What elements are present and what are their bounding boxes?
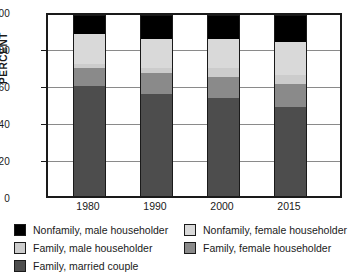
legend-item: Nonfamily, female householder	[184, 222, 347, 238]
x-tick-label-2000: 2000	[192, 200, 252, 212]
x-tick-label-1980: 1980	[58, 200, 118, 212]
legend-item: Family, male householder	[14, 240, 168, 256]
y-tick-label-0: 0	[0, 193, 10, 204]
y-tick-label-20: 20	[0, 156, 10, 167]
y-tick-label-80: 80	[0, 45, 10, 56]
y-tick-label-60: 60	[0, 82, 10, 93]
legend-swatch-icon	[14, 242, 26, 254]
bar-segment	[274, 75, 307, 84]
bar-segment	[274, 107, 307, 196]
y-tick-label-40: 40	[0, 119, 10, 130]
bar-2015	[274, 15, 307, 196]
bar-1990	[140, 15, 173, 196]
bar-segment	[140, 15, 173, 39]
legend-swatch-icon	[14, 260, 26, 272]
y-tick-label-100: 100	[0, 8, 10, 19]
legend-label: Family, female householder	[203, 242, 331, 254]
bar-segment	[207, 68, 240, 76]
bar-segment	[207, 77, 240, 99]
bar-1980	[73, 15, 106, 196]
legend-swatch-icon	[14, 224, 26, 236]
bar-segment	[274, 84, 307, 108]
y-axis-title: PERCENT	[0, 32, 9, 84]
legend-label: Family, married couple	[33, 260, 138, 272]
legend-column-left: Nonfamily, male householder Family, male…	[14, 222, 168, 275]
stacked-bar-chart: PERCENT 100 80 60 40 20 0 1980 1990 2000…	[0, 0, 359, 275]
bar-segment	[73, 34, 106, 64]
bar-segment	[73, 15, 106, 34]
x-tick-label-2015: 2015	[259, 200, 319, 212]
bar-segment	[140, 94, 173, 196]
legend-label: Nonfamily, male householder	[33, 224, 168, 236]
bar-segment	[207, 15, 240, 39]
bar-segment	[207, 98, 240, 196]
legend-item: Nonfamily, male householder	[14, 222, 168, 238]
legend-item: Family, married couple	[14, 258, 168, 274]
legend-column-right: Nonfamily, female householder Family, fe…	[184, 222, 347, 258]
bar-segment	[73, 86, 106, 196]
legend-label: Family, male householder	[33, 242, 152, 254]
plot-area	[46, 13, 342, 198]
bar-segment	[274, 15, 307, 42]
legend-swatch-icon	[184, 242, 196, 254]
legend-label: Nonfamily, female householder	[203, 224, 347, 236]
bar-segment	[73, 68, 106, 86]
legend-item: Family, female householder	[184, 240, 347, 256]
bar-segment	[140, 73, 173, 94]
bar-segment	[207, 39, 240, 68]
bar-segment	[274, 42, 307, 75]
x-tick-label-1990: 1990	[125, 200, 185, 212]
bar-segment	[140, 39, 173, 67]
legend-swatch-icon	[184, 224, 196, 236]
bar-2000	[207, 15, 240, 196]
